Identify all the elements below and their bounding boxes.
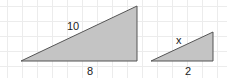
similar-triangles-diagram: 10 8 x 2 bbox=[0, 0, 227, 78]
large-hypotenuse-label: 10 bbox=[67, 20, 79, 32]
large-base-label: 8 bbox=[87, 65, 93, 77]
small-hypotenuse-label: x bbox=[176, 34, 182, 46]
small-base-label: 2 bbox=[185, 65, 191, 77]
large-triangle bbox=[21, 6, 137, 61]
